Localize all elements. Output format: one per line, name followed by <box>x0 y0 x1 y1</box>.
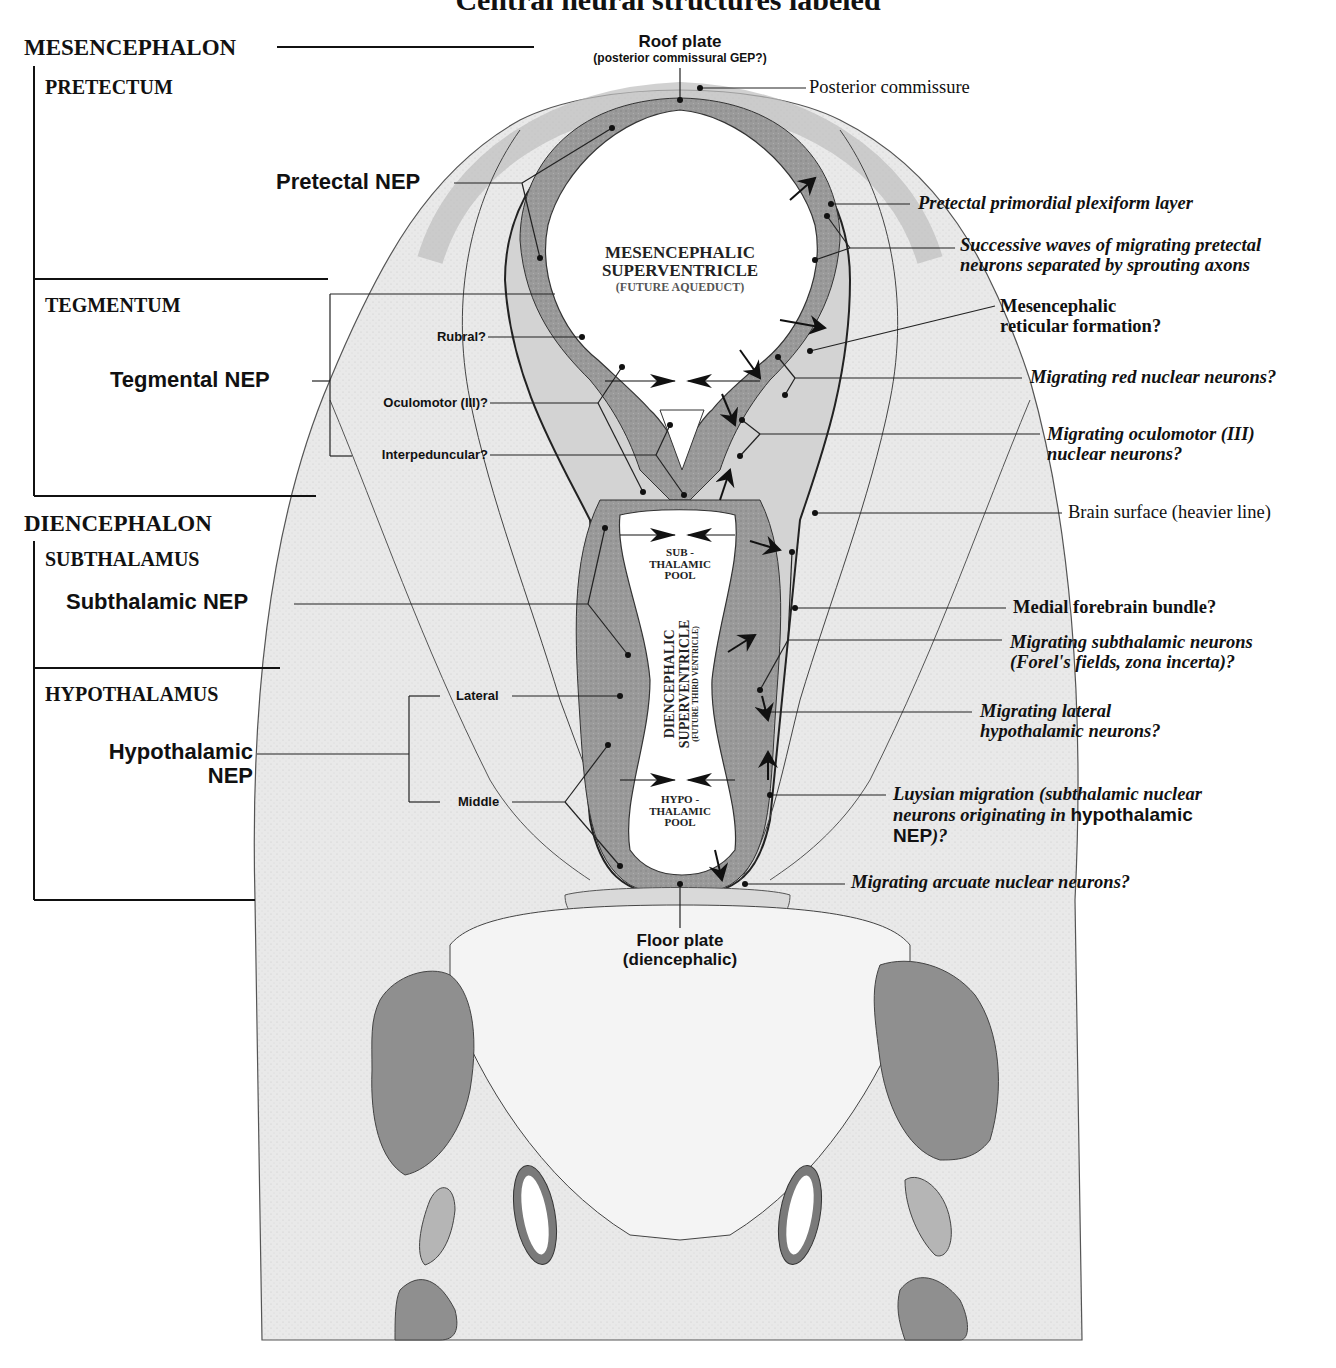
label-migrating-subthalamic: Migrating subthalamic neurons (Forel's f… <box>1010 633 1253 673</box>
label-line: Luysian migration (subthalamic nuclear <box>893 785 1202 805</box>
ventricle-line: SUPERVENTRICLE <box>560 262 800 280</box>
label-floor-plate-sub: (diencephalic) <box>560 951 800 969</box>
label-mesencephalic-reticular-formation: Mesencephalic reticular formation? <box>1000 297 1161 337</box>
label-roof-plate: Roof plate <box>560 33 800 51</box>
ventricle-line: (FUTURE THIRD VENTRICLE) <box>692 574 700 794</box>
label-lateral: Lateral <box>456 689 499 703</box>
label-migrating-red-nuclear: Migrating red nuclear neurons? <box>1030 368 1276 388</box>
label-luysian-migration: Luysian migration (subthalamic nuclear n… <box>893 785 1202 847</box>
label-medial-forebrain-bundle: Medial forebrain bundle? <box>1013 598 1216 618</box>
label-roof-plate-sub: (posterior commissural GEP?) <box>540 52 820 65</box>
label-migrating-oculomotor: Migrating oculomotor (III) nuclear neuro… <box>1047 425 1255 465</box>
ventricle-line: SUPERVENTRICLE <box>678 574 693 794</box>
label-segment: NEP <box>893 825 932 846</box>
label-successive-waves: Successive waves of migrating pretectal … <box>960 236 1261 276</box>
label-line: neurons originating in hypothalamic <box>893 805 1202 826</box>
label-segment: neurons originating in <box>893 805 1070 825</box>
pool-line: HYPO - <box>630 794 730 806</box>
pool-line: POOL <box>630 817 730 829</box>
label-migrating-lateral-hypothalamic: Migrating lateral hypothalamic neurons? <box>980 702 1160 742</box>
figure-title: Central neural structures labeled <box>0 0 1336 16</box>
division-mesencephalon: MESENCEPHALON <box>24 36 236 61</box>
label-hypothalamic-pool: HYPO - THALAMIC POOL <box>630 794 730 829</box>
label-middle: Middle <box>458 795 499 809</box>
diagram-stage: Central neural structures labeled MESENC… <box>0 0 1336 1368</box>
label-segment: hypothalamic <box>1070 804 1192 825</box>
label-line: Mesencephalic <box>1000 297 1161 317</box>
division-tegmentum: TEGMENTUM <box>45 295 181 317</box>
ventricle-line: (FUTURE AQUEDUCT) <box>560 281 800 294</box>
label-line: (Forel's fields, zona incerta)? <box>1010 653 1253 673</box>
label-interpeduncular: Interpeduncular? <box>340 448 488 462</box>
label-hypothalamic-nep-line1: Hypothalamic <box>60 740 253 764</box>
ventricle-line: MESENCEPHALIC <box>560 244 800 262</box>
label-line: hypothalamic neurons? <box>980 722 1160 742</box>
label-posterior-commissure: Posterior commissure <box>809 78 970 98</box>
label-pretectal-ppl: Pretectal primordial plexiform layer <box>918 194 1193 214</box>
label-line: nuclear neurons? <box>1047 445 1255 465</box>
label-line: Migrating oculomotor (III) <box>1047 425 1255 445</box>
label-migrating-arcuate: Migrating arcuate nuclear neurons? <box>851 873 1130 893</box>
label-subthalamic-nep: Subthalamic NEP <box>66 590 248 614</box>
label-line: Successive waves of migrating pretectal <box>960 236 1261 256</box>
label-pretectal-nep: Pretectal NEP <box>276 170 420 194</box>
label-rubral: Rubral? <box>360 330 486 344</box>
label-line: reticular formation? <box>1000 317 1161 337</box>
division-subthalamus: SUBTHALAMUS <box>45 549 199 571</box>
label-hypothalamic-nep: Hypothalamic NEP <box>60 740 253 788</box>
ventricle-line: DIENCEPHALIC <box>663 574 678 794</box>
label-line: neurons separated by sprouting axons <box>960 256 1261 276</box>
label-mesencephalic-superventricle: MESENCEPHALIC SUPERVENTRICLE (FUTURE AQU… <box>560 244 800 294</box>
label-line: NEP)? <box>893 826 1202 847</box>
label-tegmental-nep: Tegmental NEP <box>110 368 270 392</box>
label-line: Migrating subthalamic neurons <box>1010 633 1253 653</box>
label-line: Migrating lateral <box>980 702 1160 722</box>
label-oculomotor: Oculomotor (III)? <box>340 396 488 410</box>
pool-line: SUB - <box>630 547 730 559</box>
label-brain-surface: Brain surface (heavier line) <box>1068 503 1271 523</box>
division-diencephalon: DIENCEPHALON <box>24 512 212 537</box>
label-segment: )? <box>932 826 947 846</box>
division-pretectum: PRETECTUM <box>45 77 173 99</box>
division-hypothalamus: HYPOTHALAMUS <box>45 684 218 706</box>
label-floor-plate: Floor plate <box>560 932 800 950</box>
label-hypothalamic-nep-line2: NEP <box>60 764 253 788</box>
label-diencephalic-superventricle: DIENCEPHALIC SUPERVENTRICLE (FUTURE THIR… <box>663 574 701 794</box>
